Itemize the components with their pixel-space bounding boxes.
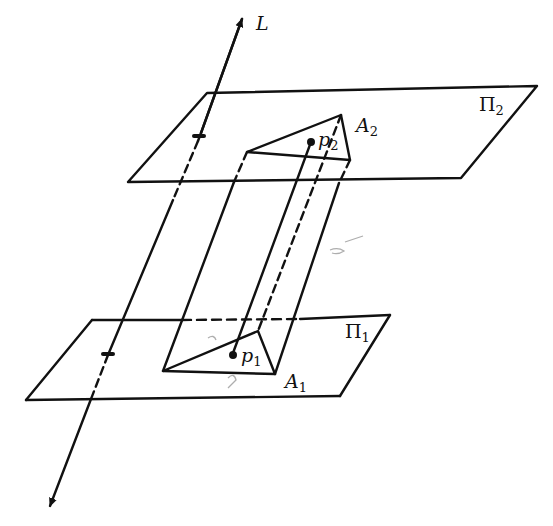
- diagram-canvas: [0, 0, 553, 526]
- pencil-marks: [208, 236, 363, 388]
- label-plane-pi1: Π1: [345, 322, 370, 344]
- label-region-A2: A2: [356, 116, 378, 138]
- point-p2: [308, 139, 314, 145]
- label-plane-pi2: Π2: [479, 95, 504, 117]
- label-point-p1: p1: [241, 346, 261, 368]
- label-region-A1: A1: [285, 372, 307, 394]
- label-point-p2: p2: [318, 130, 338, 152]
- plane-pi1: [26, 315, 390, 400]
- point-p1: [230, 352, 236, 358]
- label-line-L: L: [256, 14, 269, 33]
